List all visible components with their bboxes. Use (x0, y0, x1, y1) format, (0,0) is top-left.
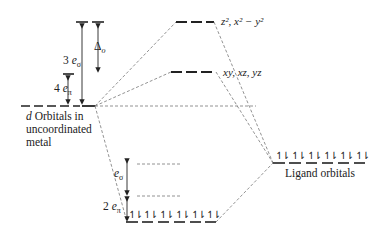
electron-pair: ↿⇂ (191, 210, 204, 220)
electron-pair: ↿⇂ (206, 210, 219, 220)
coef: 3 (63, 54, 69, 66)
subscript: σ (119, 173, 123, 182)
electron-pair: ↿⇂ (275, 151, 288, 161)
electron-pair: ↿⇂ (355, 151, 368, 161)
ligand-label: Ligand orbitals (285, 167, 355, 180)
electron-pair: ↿⇂ (323, 151, 336, 161)
electron-pair: ↿⇂ (307, 151, 320, 161)
coef: 2 (103, 200, 109, 212)
three-e-sigma-label: 3 eσ (63, 54, 81, 71)
subscript: o (101, 46, 105, 55)
correlation-lines (95, 22, 273, 222)
four-e-pi-label: 4 eπ (54, 82, 72, 99)
metal-d-label: d Orbitals in uncoordinated metal (26, 110, 92, 149)
t2g-label: xy, xz, yz (223, 66, 261, 79)
metal-d-label-line2: uncoordinated (26, 123, 92, 135)
coef: 4 (54, 82, 60, 94)
metal-d-label-line3: metal (26, 136, 52, 148)
subscript: σ (77, 60, 81, 69)
delta-o-label: Δo (94, 40, 105, 57)
electron-pair: ↿⇂ (159, 210, 172, 220)
eg-label: z², x² − y² (221, 15, 263, 28)
electron-pair: ↿⇂ (175, 210, 188, 220)
electron-pair: ↿⇂ (128, 210, 141, 220)
two-e-pi-label: 2 eπ (103, 200, 121, 217)
metal-d-label-rest: Orbitals in (32, 110, 84, 122)
subscript: π (117, 206, 121, 215)
electron-pair: ↿⇂ (143, 210, 156, 220)
electron-pair: ↿⇂ (291, 151, 304, 161)
e-sigma-label: eσ (114, 167, 123, 184)
subscript: π (68, 88, 72, 97)
electron-pair: ↿⇂ (339, 151, 352, 161)
